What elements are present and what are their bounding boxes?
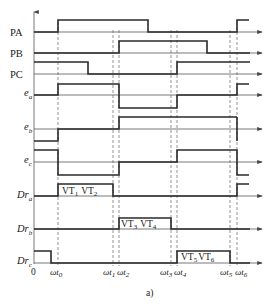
tick-wt6: ωt6	[235, 267, 248, 279]
label-ec: ec	[24, 154, 33, 168]
timing-diagram: PA PB PC ea eb ec Dra Drb Drc VT1VT2 VT3…	[0, 0, 278, 306]
tick-wt0: ωt0	[50, 267, 63, 279]
tick-wt1: ωt1	[103, 267, 115, 279]
waveform-ea	[34, 84, 249, 108]
waveform-drc	[34, 251, 250, 263]
tick-wt3: ωt3	[160, 267, 173, 279]
pulse-labels: VT1VT2 VT3VT4 VT5VT6	[62, 186, 215, 264]
tick-wt5: ωt5	[220, 267, 233, 279]
origin-label: 0	[31, 267, 36, 277]
waveform-pb	[34, 41, 250, 53]
pulse-label-vt5-vt6: VT5VT6	[181, 252, 215, 264]
tick-wt2: ωt2	[117, 267, 130, 279]
label-pa: PA	[10, 27, 23, 38]
label-pb: PB	[10, 48, 23, 59]
waveform-pc	[34, 62, 250, 74]
signal-labels: PA PB PC ea eb ec Dra Drb Drc	[10, 27, 33, 269]
tick-wt4: ωt4	[174, 267, 187, 279]
figure-caption: a)	[146, 288, 153, 299]
label-dra: Dra	[16, 189, 33, 203]
label-drb: Drb	[16, 223, 33, 237]
waveform-ec	[34, 150, 249, 175]
label-pc: PC	[10, 69, 23, 80]
waveform-pa	[34, 20, 249, 32]
label-eb: eb	[24, 121, 33, 135]
time-labels: 0 ωt0 ωt1 ωt2 ωt3 ωt4 ωt5 ωt6	[31, 267, 248, 279]
label-ea: ea	[24, 87, 33, 101]
